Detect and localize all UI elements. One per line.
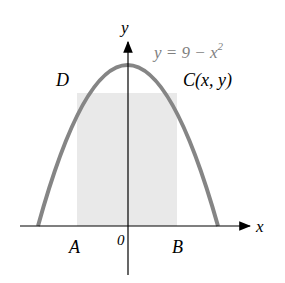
x-axis-label: x	[255, 217, 264, 236]
inscribed-rectangle	[77, 93, 177, 226]
equation-label: y = 9 − x2	[152, 40, 224, 62]
parabola-rectangle-diagram: y x y = 9 − x2 D C(x, y) 0 A B	[0, 0, 285, 283]
y-axis-label: y	[119, 18, 129, 37]
point-d-label: D	[55, 70, 69, 90]
point-b-label: B	[172, 237, 183, 257]
point-a-label: A	[68, 237, 81, 257]
point-c-label: C(x, y)	[183, 70, 232, 91]
origin-label: 0	[117, 232, 125, 248]
